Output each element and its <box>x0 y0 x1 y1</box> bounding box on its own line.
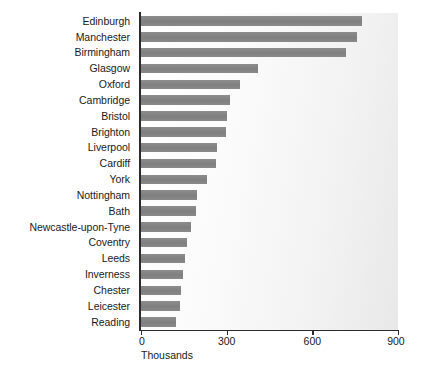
category-label: Brighton <box>0 124 136 140</box>
bar <box>141 175 207 185</box>
bar <box>141 270 183 280</box>
bars-layer <box>141 13 398 330</box>
category-label: Leeds <box>0 251 136 267</box>
bar-row <box>141 108 398 124</box>
category-label: Cambridge <box>0 92 136 108</box>
bar-row <box>141 76 398 92</box>
bar-row <box>141 61 398 77</box>
category-label: Edinburgh <box>0 13 136 29</box>
category-label: Liverpool <box>0 140 136 156</box>
bar <box>141 254 185 264</box>
bar <box>141 64 258 74</box>
category-label: Nottingham <box>0 187 136 203</box>
bar-row <box>141 282 398 298</box>
bar-row <box>141 171 398 187</box>
category-label: Manchester <box>0 29 136 45</box>
bar <box>141 222 191 232</box>
category-label: Leicester <box>0 298 136 314</box>
bar <box>141 286 181 296</box>
category-label: Bristol <box>0 108 136 124</box>
x-tick-label: 300 <box>218 335 236 347</box>
bar <box>141 127 226 137</box>
bar <box>141 317 176 327</box>
x-tick-label: 600 <box>304 335 322 347</box>
category-label: York <box>0 171 136 187</box>
bar-row <box>141 124 398 140</box>
bar-row <box>141 45 398 61</box>
bar-row <box>141 235 398 251</box>
bar-row <box>141 156 398 172</box>
bar <box>141 111 227 121</box>
bar <box>141 301 180 311</box>
category-label: Inverness <box>0 267 136 283</box>
category-label: Reading <box>0 314 136 330</box>
category-label: Chester <box>0 282 136 298</box>
category-label: Glasgow <box>0 61 136 77</box>
x-axis-title: Thousands <box>141 349 193 361</box>
category-label: Cardiff <box>0 156 136 172</box>
bar <box>141 206 196 216</box>
bar-row <box>141 92 398 108</box>
bar-row <box>141 13 398 29</box>
x-tick-label: 900 <box>387 335 405 347</box>
bar-row <box>141 314 398 330</box>
bar-row <box>141 219 398 235</box>
category-label: Oxford <box>0 76 136 92</box>
bar <box>141 238 187 248</box>
bar-row <box>141 140 398 156</box>
category-label: Birmingham <box>0 45 136 61</box>
bar-row <box>141 251 398 267</box>
category-label: Coventry <box>0 235 136 251</box>
category-label: Newcastle-upon-Tyne <box>0 219 136 235</box>
bar <box>141 95 230 105</box>
bar-chart: EdinburghManchesterBirminghamGlasgowOxfo… <box>0 0 424 373</box>
category-label: Bath <box>0 203 136 219</box>
bar-row <box>141 267 398 283</box>
bar-row <box>141 203 398 219</box>
bar-row <box>141 29 398 45</box>
bar-row <box>141 187 398 203</box>
x-tick-label: 0 <box>139 335 145 347</box>
bar <box>141 190 197 200</box>
bar-row <box>141 298 398 314</box>
bar <box>141 32 357 42</box>
category-axis-labels: EdinburghManchesterBirminghamGlasgowOxfo… <box>0 13 136 330</box>
bar <box>141 159 216 169</box>
bar <box>141 16 362 26</box>
bar <box>141 80 240 90</box>
bar <box>141 143 217 153</box>
bar <box>141 48 346 58</box>
